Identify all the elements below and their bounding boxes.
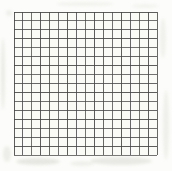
grid-svg xyxy=(0,0,172,171)
scanned-graph-paper xyxy=(0,0,172,171)
